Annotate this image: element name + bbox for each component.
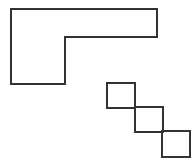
square-bottom-right bbox=[162, 131, 190, 157]
l-shape-polygon bbox=[11, 9, 157, 84]
figure-canvas bbox=[0, 0, 196, 161]
square-middle bbox=[135, 107, 163, 132]
square-top-left bbox=[107, 83, 135, 108]
geometric-figure-svg bbox=[0, 0, 196, 161]
